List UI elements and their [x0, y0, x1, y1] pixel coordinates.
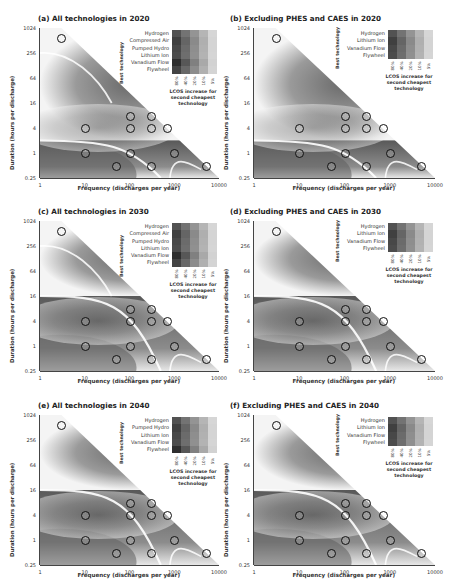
legend-swatch [199, 439, 208, 446]
x-axis [254, 371, 435, 372]
legend-swatch [172, 59, 181, 66]
site-marker [362, 124, 371, 133]
x-axis-label: Frequency (discharges per year) [293, 572, 395, 578]
legend-swatch [208, 446, 217, 453]
legend-swatch [181, 424, 190, 431]
legend-swatch [190, 66, 199, 73]
legend-technology: Lithium Ion [129, 52, 169, 59]
legend-swatch [415, 230, 424, 237]
legend-swatch [397, 223, 406, 230]
legend-technology: Vanadium Flow [129, 252, 169, 259]
legend-swatch [415, 45, 424, 52]
site-marker [362, 162, 371, 171]
legend-swatch [181, 223, 190, 230]
y-tick-label: 4 [16, 318, 36, 324]
legend-swatch [208, 259, 217, 266]
chart-panel-e: (e) All technologies in 2040102425664164… [0, 387, 228, 580]
site-marker [202, 355, 211, 364]
site-marker [126, 536, 135, 545]
legend-swatch [199, 432, 208, 439]
y-tick-label: 4 [16, 125, 36, 131]
legend-technology: Hydrogen [129, 223, 169, 230]
legend-caption: LCOS increase forsecond cheapesttechnolo… [167, 282, 219, 300]
panel-title: (b) Excluding PHES and CAES in 2020 [230, 14, 381, 23]
legend-technology: Pumped Hydro [129, 238, 169, 245]
legend-swatch [424, 230, 433, 237]
x-axis [40, 178, 219, 179]
y-tick-label: 1024 [16, 25, 36, 31]
legend-technology-names: HydrogenCompressed AirPumped HydroLithiu… [129, 223, 169, 267]
legend-swatch [406, 52, 415, 59]
x-tick-label: 1 [28, 182, 52, 188]
legend-technology: Pumped Hydro [131, 424, 169, 431]
legend-swatch [388, 230, 397, 237]
legend-swatch [397, 230, 406, 237]
legend-swatch [190, 259, 199, 266]
y-tick-label: 256 [230, 50, 250, 56]
y-tick-label: 256 [16, 437, 36, 443]
legend-scale-tick: 5% [208, 269, 218, 278]
legend-swatch [181, 45, 190, 52]
y-tick-label: 16 [230, 293, 250, 299]
legend-swatch [397, 238, 406, 245]
y-axis-label: Duration (hours per discharge) [223, 269, 229, 363]
site-marker [362, 549, 371, 558]
site-marker [112, 355, 121, 364]
legend-swatch [190, 417, 199, 424]
legend-swatch [397, 52, 406, 59]
legend-technology: Hydrogen [347, 223, 385, 230]
legend-swatch [388, 245, 397, 252]
legend-swatch [208, 424, 217, 431]
chart-panel-c: (c) All technologies in 2030102425664164… [0, 193, 228, 386]
legend-swatch [181, 52, 190, 59]
legend-technology: Flywheel [347, 52, 385, 59]
legend-swatch [406, 30, 415, 37]
site-marker [362, 305, 371, 314]
legend-swatch [424, 245, 433, 252]
y-tick-label: 256 [230, 243, 250, 249]
legend-swatch [406, 417, 415, 424]
y-tick-label: 256 [16, 50, 36, 56]
y-tick-label: 0.25 [230, 562, 250, 568]
site-marker [386, 342, 395, 351]
legend-swatch [406, 245, 415, 252]
y-tick-label: 0.25 [230, 368, 250, 374]
legend-swatch [190, 45, 199, 52]
legend: HydrogenLithium IonVanadium FlowFlywheel… [325, 30, 435, 110]
legend-technology: Hydrogen [347, 417, 385, 424]
site-marker [272, 227, 281, 236]
x-tick-label: 1 [28, 569, 52, 575]
legend-caption-line: technology [383, 473, 435, 479]
legend-swatch [208, 37, 217, 44]
legend-color-grid [388, 223, 433, 252]
y-tick-label: 16 [16, 100, 36, 106]
legend-technology: Lithium Ion [347, 230, 385, 237]
legend: HydrogenLithium IonVanadium FlowFlywheel… [325, 417, 435, 497]
legend-swatch [406, 432, 415, 439]
legend-swatch [181, 66, 190, 73]
legend-swatch [388, 223, 397, 230]
legend-swatch [388, 417, 397, 424]
legend-caption-line: LCOS increase for [167, 282, 219, 288]
legend-swatch [199, 252, 208, 259]
legend-swatch [190, 424, 199, 431]
site-marker [379, 317, 388, 326]
y-axis-label: Duration (hours per discharge) [223, 463, 229, 557]
legend-technology: Vanadium Flow [131, 439, 169, 446]
legend-swatch [199, 446, 208, 453]
legend: HydrogenLithium IonVanadium FlowFlywheel… [325, 223, 435, 303]
legend-caption-line: second cheapest [167, 288, 219, 294]
site-marker [341, 317, 350, 326]
y-axis [39, 28, 40, 178]
legend-caption: LCOS increase forsecond cheapesttechnolo… [167, 89, 219, 107]
legend-swatch [190, 52, 199, 59]
legend-swatch [190, 230, 199, 237]
legend-scale-ticks: 80%40%20%10%5% [172, 269, 217, 279]
x-axis-label: Frequency (discharges per year) [78, 185, 180, 191]
legend-swatch [415, 238, 424, 245]
legend-swatch [190, 238, 199, 245]
x-tick-label: 10000 [423, 375, 447, 381]
site-marker [147, 124, 156, 133]
y-tick-label: 1 [230, 150, 250, 156]
site-marker [126, 305, 135, 314]
